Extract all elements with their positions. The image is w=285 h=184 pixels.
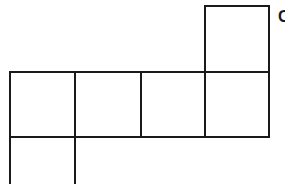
net-square-row-1 xyxy=(10,72,75,137)
net-square-row-2 xyxy=(75,72,141,137)
net-square-top xyxy=(205,6,269,72)
net-square-row-4 xyxy=(205,72,269,137)
net-square-bottom xyxy=(10,137,75,184)
cube-net-diagram xyxy=(0,0,285,184)
option-label: C xyxy=(278,8,285,26)
net-square-row-3 xyxy=(141,72,205,137)
